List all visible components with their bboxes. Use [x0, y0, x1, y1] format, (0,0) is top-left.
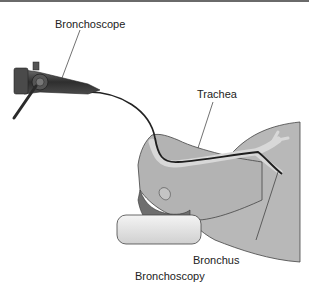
label-bronchoscope: Bronchoscope [55, 18, 125, 30]
label-trachea: Trachea [197, 88, 237, 100]
bronchoscopy-illustration [0, 0, 309, 289]
figure-caption: Bronchoscopy [135, 270, 205, 282]
label-bronchus: Bronchus [193, 254, 239, 266]
bronchoscope-cable [88, 92, 155, 138]
pillow [117, 215, 201, 244]
bronchoscope-device [14, 62, 100, 118]
